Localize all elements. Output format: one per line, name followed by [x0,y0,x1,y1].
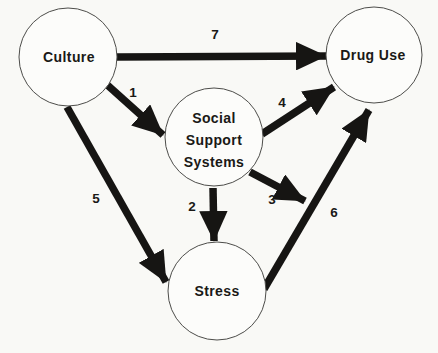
edge-7-label: 7 [211,27,219,42]
edge-4-social-support-to-drug-use [262,87,334,134]
node-social-support-label-line3: Systems [184,154,244,170]
edge-5-label: 5 [92,191,100,206]
edge-3-social-support-to-path [250,172,305,201]
node-social-support-label-line1: Social [192,110,236,126]
edge-6-stress-to-drug-use [264,110,369,289]
diagram-canvas: 7 1 5 2 4 3 6 Culture Drug Use Social Su… [0,0,438,353]
node-stress-label: Stress [194,283,239,299]
edge-7-culture-to-drug-use [117,56,326,57]
edge-2-social-support-to-stress [213,188,214,241]
edge-1-label: 1 [129,85,137,100]
path-diagram: 7 1 5 2 4 3 6 Culture Drug Use Social Su… [0,0,438,353]
node-social-support-label-line2: Support [186,132,242,148]
edge-6-label: 6 [330,205,338,220]
edge-3-label: 3 [268,192,276,207]
edge-2-label: 2 [188,199,196,214]
node-drug-use-label: Drug Use [340,47,405,63]
edge-4-label: 4 [278,95,286,110]
edge-5-culture-to-stress [67,107,166,282]
node-culture-label: Culture [43,49,95,65]
